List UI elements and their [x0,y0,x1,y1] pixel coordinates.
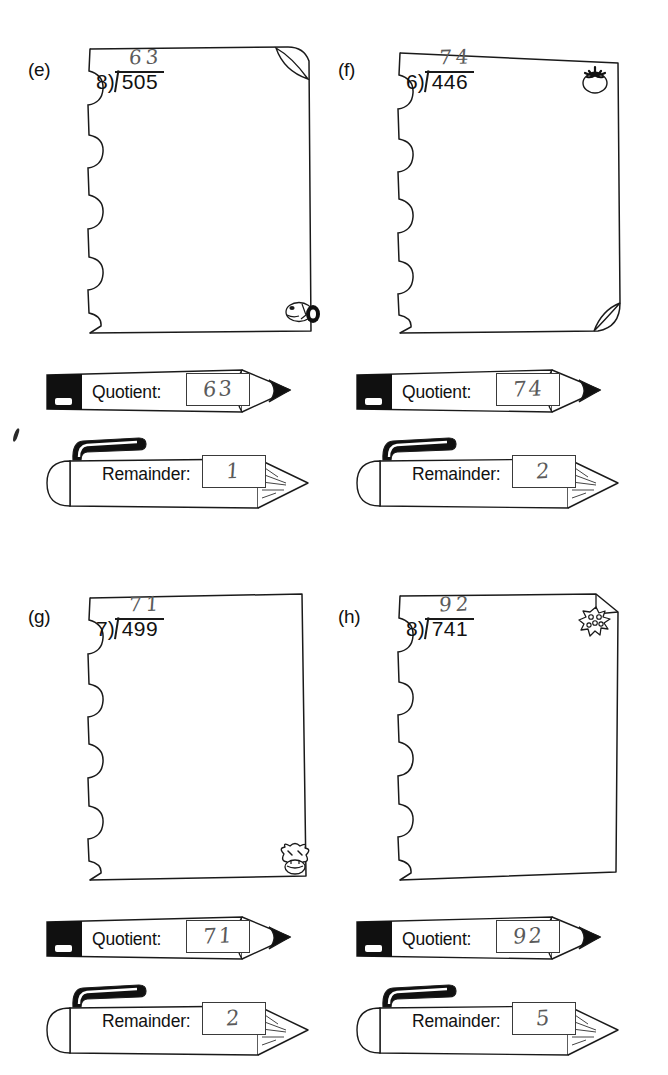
remainder-pen-e: Remainder: 1 [46,433,316,511]
remainder-pen-f: Remainder: 2 [356,433,626,511]
problem-label-f: (f) [338,59,355,81]
remainder-answer-f: 2 [536,461,553,483]
quotient-pencil-f: Quotient: 74 [356,365,614,417]
quotient-label-h: Quotient: [402,929,471,950]
problem-label-g: (g) [28,606,50,628]
divisor-e: 8) [96,71,115,93]
remainder-label-h: Remainder: [412,1011,500,1032]
quotient-answer-box-e[interactable]: 63 [186,373,250,406]
bracket-bar-icon [425,618,475,620]
divisor-h: 8) [406,618,425,640]
stray-ink-mark [12,428,20,443]
division-bracket-g: 499 71 [115,618,165,640]
problem-label-e: (e) [28,59,50,81]
remainder-label-e: Remainder: [102,464,190,485]
quotient-answer-g: 71 [202,925,234,948]
division-bracket-f: 446 74 [425,71,475,93]
dog-face-doodle [284,295,324,329]
worksheet-page: (e) 8) 505 63 [0,0,668,1075]
handwritten-quotient-g: 71 [128,591,163,616]
berry-doodle [578,604,614,642]
remainder-answer-box-h[interactable]: 5 [512,1002,576,1035]
division-bracket-h: 741 92 [425,618,475,640]
remainder-answer-box-f[interactable]: 2 [512,455,576,488]
quotient-label-g: Quotient: [92,929,161,950]
division-sum-g: 7) 499 71 [96,618,164,640]
division-sum-e: 8) 505 63 [96,71,164,93]
bracket-bar-icon [115,71,165,73]
remainder-label-g: Remainder: [102,1011,190,1032]
quotient-answer-box-g[interactable]: 71 [186,920,250,953]
remainder-answer-box-g[interactable]: 2 [202,1002,266,1035]
remainder-answer-g: 2 [226,1008,243,1030]
division-sum-h: 8) 741 92 [406,618,474,640]
problem-f: (f) 6) 446 74 [338,45,638,545]
divisor-f: 6) [406,71,425,93]
cow-face-doodle [276,840,314,878]
problem-label-h: (h) [338,606,360,628]
quotient-answer-e: 63 [202,378,234,401]
quotient-pencil-g: Quotient: 71 [46,912,304,964]
quotient-answer-box-f[interactable]: 74 [496,373,560,406]
problem-h: (h) 8) 741 92 [338,592,638,1075]
remainder-label-f: Remainder: [412,464,500,485]
remainder-answer-h: 5 [536,1008,553,1030]
quotient-pencil-e: Quotient: 63 [46,365,304,417]
division-bracket-e: 505 63 [115,71,165,93]
quotient-label-e: Quotient: [92,382,161,403]
quotient-answer-f: 74 [512,378,544,401]
handwritten-quotient-e: 63 [128,44,163,69]
quotient-pencil-h: Quotient: 92 [356,912,614,964]
remainder-pen-h: Remainder: 5 [356,980,626,1058]
handwritten-quotient-f: 74 [438,44,473,69]
handwritten-quotient-h: 92 [438,591,473,616]
remainder-answer-box-e[interactable]: 1 [202,455,266,488]
divisor-g: 7) [96,618,115,640]
bracket-bar-icon [425,71,475,73]
remainder-pen-g: Remainder: 2 [46,980,316,1058]
quotient-answer-box-h[interactable]: 92 [496,920,560,953]
tomato-doodle [578,63,612,97]
problem-g: (g) 7) 499 71 [28,592,328,1075]
problem-e: (e) 8) 505 63 [28,45,328,545]
bracket-bar-icon [115,618,165,620]
division-sum-f: 6) 446 74 [406,71,474,93]
quotient-label-f: Quotient: [402,382,471,403]
quotient-answer-h: 92 [512,925,544,948]
remainder-answer-e: 1 [226,461,243,483]
